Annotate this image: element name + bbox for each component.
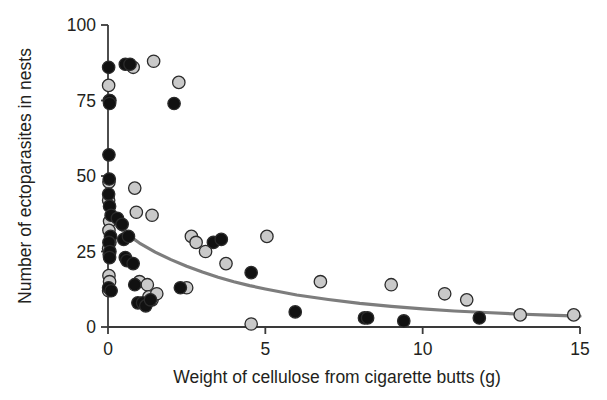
x-tick-label: 5 — [260, 339, 270, 359]
data-point — [289, 306, 301, 318]
data-point — [129, 182, 141, 194]
y-tick-label: 100 — [67, 15, 96, 35]
y-tick-label: 0 — [86, 317, 96, 337]
data-point — [102, 188, 114, 200]
data-point — [103, 97, 115, 109]
data-point — [568, 309, 580, 321]
data-point — [473, 312, 485, 324]
data-point — [174, 282, 186, 294]
data-point — [130, 206, 142, 218]
data-point — [116, 218, 128, 230]
y-tick-label: 25 — [77, 242, 96, 262]
data-point — [102, 79, 114, 91]
data-point — [102, 61, 114, 73]
data-point — [127, 257, 139, 269]
data-point — [190, 236, 202, 248]
data-point — [245, 266, 257, 278]
x-axis-title: Weight of cellulose from cigarette butts… — [173, 367, 500, 387]
tick-marks — [101, 25, 580, 334]
data-point — [215, 233, 227, 245]
data-point — [105, 285, 117, 297]
data-point — [103, 173, 115, 185]
data-point — [146, 209, 158, 221]
data-point — [173, 76, 185, 88]
data-point — [438, 288, 450, 300]
y-tick-labels: 0255075100 — [67, 15, 96, 337]
data-point — [461, 294, 473, 306]
data-point — [141, 279, 153, 291]
trendline — [108, 218, 580, 316]
data-point — [168, 97, 180, 109]
scatter-chart-figure: 051015 0255075100 Weight of cellulose fr… — [0, 0, 607, 400]
data-point — [124, 58, 136, 70]
chart-canvas: 051015 0255075100 Weight of cellulose fr… — [0, 0, 607, 400]
data-point — [144, 294, 156, 306]
x-tick-label: 10 — [413, 339, 433, 359]
data-point — [147, 55, 159, 67]
data-point — [314, 276, 326, 288]
y-tick-label: 75 — [77, 91, 96, 111]
y-tick-label: 50 — [77, 166, 97, 186]
y-axis-title: Number of ectoparasites in nests — [15, 48, 35, 304]
data-point — [398, 315, 410, 327]
trendline-path — [108, 218, 580, 316]
data-point — [361, 312, 373, 324]
data-point — [385, 279, 397, 291]
data-point — [103, 149, 115, 161]
x-tick-label: 15 — [570, 339, 589, 359]
data-point — [122, 230, 134, 242]
plot-area: 051015 0255075100 — [67, 15, 590, 359]
x-tick-labels: 051015 — [103, 339, 590, 359]
x-tick-label: 0 — [103, 339, 113, 359]
data-point — [129, 279, 141, 291]
data-points-dark-series — [102, 58, 485, 327]
data-point — [220, 257, 232, 269]
data-point — [245, 318, 257, 330]
data-point — [103, 251, 115, 263]
data-point — [261, 230, 273, 242]
data-point — [514, 309, 526, 321]
